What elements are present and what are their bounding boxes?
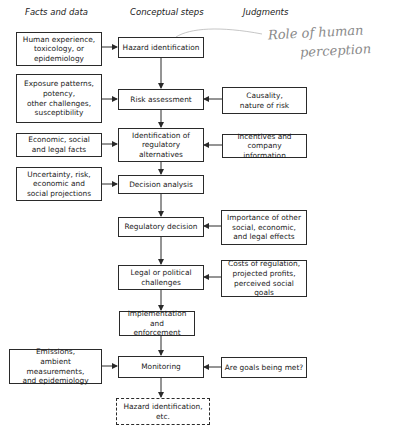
step-hazard-identification: Hazard identification (118, 37, 204, 58)
judgment-importance-of-other-effects: Importance of other social, economic, an… (221, 210, 307, 245)
judgment-label: Incentives and company information (225, 132, 304, 161)
judgment-label: Importance of other social, economic, an… (227, 213, 301, 242)
fact-emissions: Emissions, ambient measurements, and epi… (9, 349, 102, 384)
step-label: Hazard identification (123, 43, 200, 53)
fact-economic-social-legal: Economic, social and legal facts (16, 133, 102, 157)
fact-label: Human experience, toxicology, or epidemi… (23, 35, 95, 64)
fact-exposure-patterns: Exposure patterns, potency, other challe… (16, 74, 102, 123)
fact-uncertainty-risk: Uncertainty, risk, economic and social p… (16, 167, 102, 201)
step-label: Decision analysis (129, 180, 193, 190)
step-implementation-and-enforcement: Implementation and enforcement (119, 311, 195, 336)
step-decision-analysis: Decision analysis (118, 175, 204, 194)
step-label: Identification of regulatory alternative… (132, 131, 190, 160)
step-label: Monitoring (141, 362, 181, 372)
judgment-costs-of-regulation: Costs of regulation, projected profits, … (221, 260, 307, 297)
step-legal-or-political-challenges: Legal or political challenges (118, 265, 204, 290)
fact-label: Emissions, ambient measurements, and epi… (12, 347, 99, 385)
judgment-are-goals-being-met: Are goals being met? (221, 357, 307, 378)
judgment-label: Costs of regulation, projected profits, … (224, 259, 304, 297)
step-label: Hazard identification, etc. (123, 402, 202, 421)
step-label: Regulatory decision (125, 222, 198, 232)
step-label: Legal or political challenges (131, 268, 192, 287)
fact-label: Exposure patterns, potency, other challe… (24, 79, 94, 117)
step-label: Implementation and enforcement (122, 309, 192, 338)
judgment-label: Causality, nature of risk (240, 91, 289, 110)
step-risk-assessment: Risk assessment (118, 89, 204, 110)
step-identification-of-regulatory-alternatives: Identification of regulatory alternative… (118, 128, 204, 162)
judgment-label: Are goals being met? (225, 363, 303, 373)
step-hazard-identification-etc: Hazard identification, etc. (116, 398, 210, 425)
annotation-curve (176, 29, 262, 37)
judgment-causality: Causality, nature of risk (222, 87, 307, 114)
fact-label: Economic, social and legal facts (28, 135, 90, 154)
step-monitoring: Monitoring (118, 356, 204, 378)
step-label: Risk assessment (130, 95, 191, 105)
fact-human-experience: Human experience, toxicology, or epidemi… (16, 32, 102, 66)
step-regulatory-decision: Regulatory decision (118, 217, 204, 237)
judgment-incentives: Incentives and company information (222, 134, 307, 158)
fact-label: Uncertainty, risk, economic and social p… (27, 170, 91, 199)
